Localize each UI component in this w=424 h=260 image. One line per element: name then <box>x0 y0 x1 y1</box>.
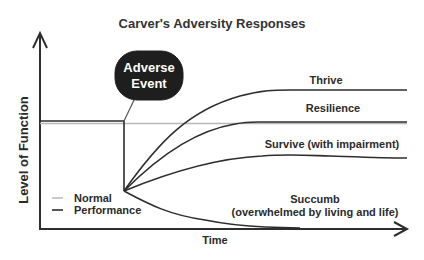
resilience-label: Resilience <box>306 102 360 114</box>
succumb-label: Succumb <box>290 193 340 205</box>
legend: Normal Performance <box>52 192 141 216</box>
y-axis <box>33 33 47 230</box>
adversity-diagram: Carver's Adversity Responses Level of Fu… <box>0 0 424 260</box>
legend-normal-label: Normal <box>74 192 112 204</box>
survive-curve <box>124 155 407 191</box>
adverse-event-line2: Event <box>131 76 167 91</box>
succumb-sublabel: (overwhelmed by living and life) <box>232 206 399 218</box>
adverse-event-callout: Adverse Event <box>115 51 183 121</box>
performance-line <box>40 121 124 191</box>
chart-title: Carver's Adversity Responses <box>119 16 306 31</box>
thrive-label: Thrive <box>309 74 342 86</box>
y-axis-label: Level of Function <box>16 96 31 204</box>
legend-performance-label: Performance <box>74 204 141 216</box>
survive-label: Survive (with impairment) <box>265 138 400 150</box>
adverse-event-line1: Adverse <box>123 60 174 75</box>
callout-pointer <box>124 98 135 121</box>
x-axis-label: Time <box>202 234 227 246</box>
